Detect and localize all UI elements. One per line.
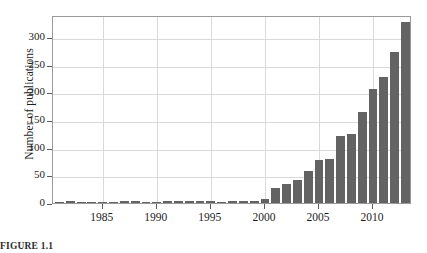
y-tick-label: 200 bbox=[29, 85, 46, 97]
x-tick-label: 1995 bbox=[188, 211, 232, 223]
bar bbox=[358, 112, 367, 203]
bar bbox=[55, 202, 64, 203]
bar bbox=[315, 160, 324, 203]
x-tick-mark bbox=[156, 204, 157, 209]
y-tick-label: 0 bbox=[40, 196, 46, 208]
bar bbox=[131, 201, 140, 203]
bar bbox=[379, 77, 388, 203]
bar bbox=[196, 201, 205, 203]
bar bbox=[163, 201, 172, 203]
y-tick-label: 100 bbox=[29, 141, 46, 153]
bar bbox=[66, 201, 75, 203]
bar bbox=[271, 188, 280, 203]
y-axis-tick: 150 bbox=[0, 121, 52, 122]
y-tick-mark bbox=[47, 149, 52, 150]
x-tick-label: 1990 bbox=[134, 211, 178, 223]
x-tick-label: 1985 bbox=[80, 211, 124, 223]
bar bbox=[336, 136, 345, 203]
y-tick-mark bbox=[47, 204, 52, 205]
figure-container: Number of publications 05010015020025030… bbox=[0, 0, 427, 253]
gridline-horizontal bbox=[53, 39, 410, 40]
x-tick-label: 2005 bbox=[296, 211, 340, 223]
y-axis-tick: 0 bbox=[0, 204, 52, 205]
bar bbox=[250, 201, 259, 203]
bar bbox=[304, 171, 313, 203]
y-axis-tick: 300 bbox=[0, 38, 52, 39]
bar bbox=[261, 199, 270, 203]
bar bbox=[152, 202, 161, 203]
bar bbox=[98, 202, 107, 203]
bar bbox=[77, 202, 86, 203]
y-tick-mark bbox=[47, 66, 52, 67]
bar bbox=[142, 202, 151, 203]
y-axis-tick: 100 bbox=[0, 149, 52, 150]
bar bbox=[87, 202, 96, 203]
x-tick-label: 2000 bbox=[242, 211, 286, 223]
y-tick-label: 150 bbox=[29, 113, 46, 125]
bar bbox=[217, 202, 226, 203]
y-tick-mark bbox=[47, 38, 52, 39]
y-tick-label: 300 bbox=[29, 30, 46, 42]
y-tick-label: 50 bbox=[34, 168, 45, 180]
bar bbox=[369, 89, 378, 203]
gridline-horizontal bbox=[53, 94, 410, 95]
x-tick-mark bbox=[264, 204, 265, 209]
y-tick-mark bbox=[47, 176, 52, 177]
bar bbox=[347, 134, 356, 203]
bar bbox=[293, 180, 302, 203]
bar bbox=[239, 201, 248, 203]
figure-caption: FIGURE 1.1 bbox=[0, 241, 53, 251]
bar bbox=[206, 201, 215, 203]
gridline-horizontal bbox=[53, 150, 410, 151]
y-tick-mark bbox=[47, 121, 52, 122]
plot-area bbox=[52, 16, 411, 204]
gridline-horizontal bbox=[53, 177, 410, 178]
gridline-vertical bbox=[211, 17, 212, 203]
x-tick-label: 2010 bbox=[350, 211, 394, 223]
bar bbox=[228, 201, 237, 203]
bar bbox=[390, 52, 399, 203]
gridline-horizontal bbox=[53, 67, 410, 68]
bar bbox=[109, 202, 118, 203]
y-axis-tick: 250 bbox=[0, 66, 52, 67]
bar bbox=[120, 201, 129, 203]
y-axis-tick: 200 bbox=[0, 93, 52, 94]
y-tick-label: 250 bbox=[29, 58, 46, 70]
bar bbox=[282, 184, 291, 203]
bar bbox=[185, 201, 194, 203]
y-axis-label: Number of publications bbox=[23, 19, 35, 189]
y-tick-mark bbox=[47, 93, 52, 94]
gridline-horizontal bbox=[53, 122, 410, 123]
gridline-vertical bbox=[265, 17, 266, 203]
gridline-vertical bbox=[103, 17, 104, 203]
x-tick-mark bbox=[318, 204, 319, 209]
bar bbox=[401, 22, 410, 203]
x-tick-mark bbox=[102, 204, 103, 209]
bar bbox=[174, 201, 183, 203]
gridline-vertical bbox=[157, 17, 158, 203]
bar bbox=[325, 159, 334, 203]
x-tick-mark bbox=[210, 204, 211, 209]
y-axis-tick: 50 bbox=[0, 176, 52, 177]
x-tick-mark bbox=[372, 204, 373, 209]
